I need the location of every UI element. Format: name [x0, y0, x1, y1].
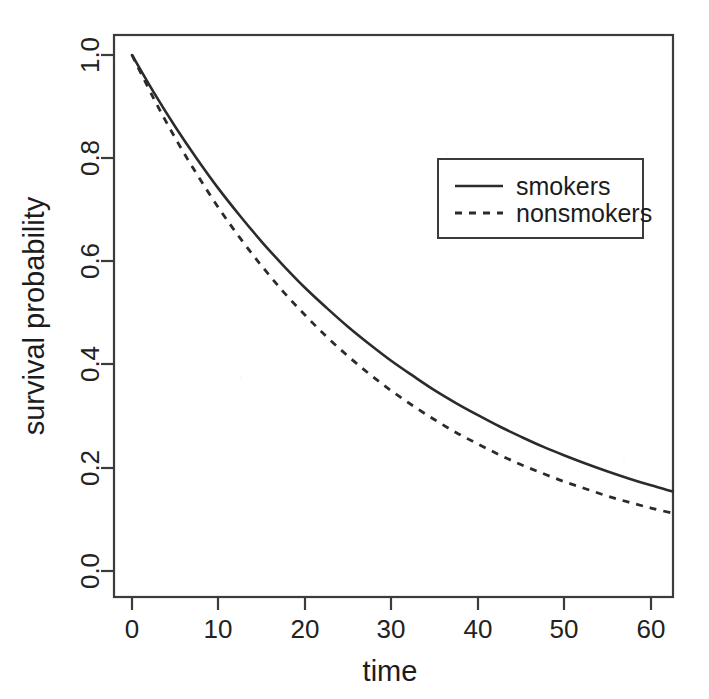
x-tick-label: 30	[377, 614, 406, 644]
x-axis-tick-labels: 0 10 20 30 40 50 60	[125, 614, 666, 644]
y-axis-ticks	[101, 55, 114, 571]
y-tick-label: 0.0	[75, 553, 105, 589]
survival-plot-figure: 1.0 0.8 0.6 0.4 0.2 0.0 0 10 20 30 40 50…	[0, 0, 709, 699]
chart-legend: smokers nonsmokers	[438, 159, 652, 238]
y-tick-label: 0.8	[75, 140, 105, 176]
plot-frame	[114, 35, 673, 597]
y-tick-label: 1.0	[75, 37, 105, 73]
series-line-smokers	[132, 55, 673, 492]
x-tick-label: 60	[637, 614, 666, 644]
chart-canvas: 1.0 0.8 0.6 0.4 0.2 0.0 0 10 20 30 40 50…	[0, 0, 709, 699]
y-axis-title: survival probability	[18, 196, 50, 435]
x-tick-label: 50	[550, 614, 579, 644]
y-axis-tick-labels: 1.0 0.8 0.6 0.4 0.2 0.0	[75, 37, 105, 589]
x-tick-label: 0	[125, 614, 139, 644]
x-tick-label: 10	[204, 614, 233, 644]
x-axis-title: time	[363, 655, 418, 687]
series-line-nonsmokers	[132, 55, 673, 513]
y-tick-label: 0.2	[75, 450, 105, 486]
y-tick-label: 0.4	[75, 346, 105, 382]
x-axis-ticks	[132, 597, 651, 610]
y-tick-label: 0.6	[75, 243, 105, 279]
x-tick-label: 40	[464, 614, 493, 644]
x-tick-label: 20	[291, 614, 320, 644]
legend-label-smokers: smokers	[516, 172, 610, 200]
legend-label-nonsmokers: nonsmokers	[516, 199, 652, 227]
